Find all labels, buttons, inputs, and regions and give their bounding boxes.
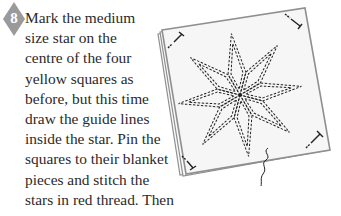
stitched-star-illustration <box>0 0 341 216</box>
